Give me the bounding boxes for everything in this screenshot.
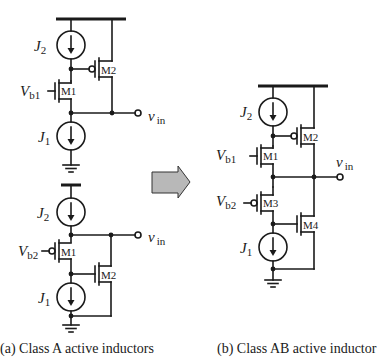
svg-text:vin: vin	[148, 229, 166, 247]
svg-text:J1: J1	[38, 129, 50, 147]
svg-text:Vb2: Vb2	[216, 193, 236, 211]
svg-text:J2: J2	[37, 205, 49, 223]
svg-text:J1: J1	[38, 290, 50, 308]
circuit-diagram: J2 Vb1 M1 M2 vin J1	[0, 0, 381, 359]
current-source-j1-icon	[57, 283, 85, 311]
output-terminal-icon	[135, 232, 141, 238]
circuit-a-bottom: J2 Vb2 M1 M2 vin J1	[18, 185, 166, 332]
svg-text:Vb1: Vb1	[216, 147, 236, 165]
circuit-b: J2 Vb1 M1 M2 Vb2 M3 M4 vin J1	[216, 86, 354, 287]
svg-text:Vb1: Vb1	[20, 83, 40, 101]
caption-b: (b) Class AB active inductor	[217, 341, 376, 357]
svg-text:J2: J2	[240, 104, 252, 122]
svg-text:M4: M4	[303, 219, 319, 231]
svg-text:Vb2: Vb2	[18, 243, 38, 261]
svg-text:M2: M2	[101, 269, 116, 281]
circuit-a-top: J2 Vb1 M1 M2 vin J1	[20, 19, 166, 172]
svg-text:M1: M1	[61, 246, 76, 258]
svg-text:J1: J1	[240, 240, 252, 258]
svg-text:vin: vin	[336, 154, 354, 172]
svg-text:M1: M1	[61, 85, 76, 97]
svg-text:M1: M1	[263, 150, 278, 162]
output-terminal-icon	[135, 110, 141, 116]
svg-text:M3: M3	[263, 197, 279, 209]
current-source-j2-icon	[57, 198, 85, 226]
svg-text:M2: M2	[303, 131, 318, 143]
svg-text:J2: J2	[34, 38, 46, 56]
ground-icon	[63, 325, 79, 332]
caption-a: (a) Class A active inductors	[0, 341, 154, 357]
ground-icon	[63, 165, 79, 172]
current-source-j2-icon	[57, 31, 85, 59]
current-source-j1-icon	[259, 233, 287, 261]
transform-arrow-icon	[152, 166, 190, 198]
output-terminal-icon	[337, 174, 343, 180]
current-source-j2-icon	[259, 98, 287, 126]
svg-text:vin: vin	[148, 108, 166, 126]
transistor-m2-icon	[291, 86, 314, 216]
svg-text:M2: M2	[101, 64, 116, 76]
current-source-j1-icon	[57, 122, 85, 150]
ground-icon	[265, 280, 281, 287]
